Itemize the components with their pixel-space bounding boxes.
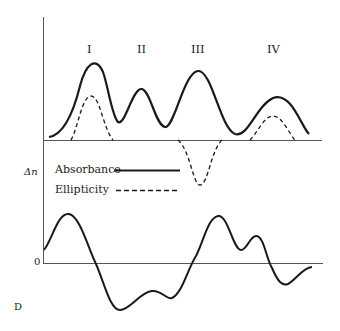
peak-label-iii: III bbox=[191, 44, 205, 56]
peak-label-ii: II bbox=[137, 44, 146, 56]
dn-curve bbox=[44, 214, 312, 310]
ellipticity-negative-band bbox=[178, 140, 222, 185]
zero-tick-label: 0 bbox=[34, 257, 40, 267]
y-axis-label: Δn bbox=[24, 167, 38, 177]
absorbance-curve bbox=[49, 63, 309, 137]
legend-absorbance-label: Absorbance bbox=[55, 164, 121, 175]
diagram-canvas bbox=[0, 0, 340, 331]
panel-label: D bbox=[14, 302, 22, 312]
ellipticity-curve-iv bbox=[250, 116, 295, 140]
legend-ellipticity-label: Ellipticity bbox=[55, 184, 109, 195]
peak-label-iv: IV bbox=[267, 44, 280, 56]
ellipticity-curve bbox=[71, 96, 113, 140]
peak-label-i: I bbox=[87, 44, 92, 56]
